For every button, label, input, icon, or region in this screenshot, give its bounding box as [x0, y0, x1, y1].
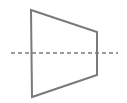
trapezoid-diagram: [0, 0, 127, 103]
